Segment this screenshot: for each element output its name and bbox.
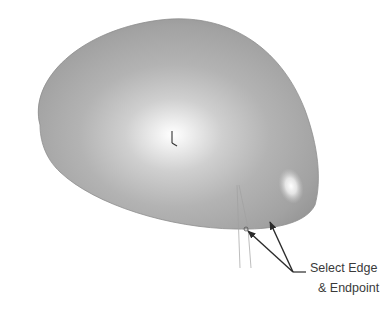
dome-surface[interactable]	[38, 19, 318, 229]
arrow-to-edge	[270, 222, 293, 272]
callout-label-line2: & Endpoint	[318, 280, 379, 296]
callout-label-line1: Select Edge	[310, 260, 377, 276]
arrow-to-endpoint	[248, 231, 293, 272]
callout-arrows	[248, 222, 306, 272]
